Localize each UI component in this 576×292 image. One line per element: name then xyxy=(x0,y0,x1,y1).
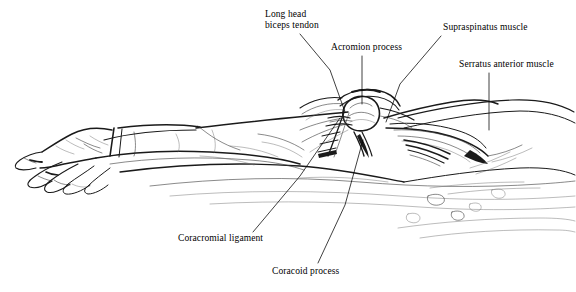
label-line-1: Supraspinatus muscle xyxy=(443,22,528,32)
label-line-1: Long head xyxy=(265,9,306,19)
label-line-1: Serratus anterior muscle xyxy=(459,59,554,69)
label-acromion-process: Acromion process xyxy=(331,42,402,53)
label-coracoid-process: Coracoid process xyxy=(272,266,339,277)
arm-contours xyxy=(96,125,304,170)
torso-contours xyxy=(120,100,575,210)
label-serratus-anterior-muscle: Serratus anterior muscle xyxy=(459,59,554,70)
leader-coracoid-process xyxy=(318,140,363,263)
anatomy-figure: Long headbiceps tendon Acromion process … xyxy=(0,0,576,292)
label-line-2: biceps tendon xyxy=(265,20,319,30)
label-line-1: Acromion process xyxy=(331,42,402,52)
label-line-1: Coracromial ligament xyxy=(178,233,263,243)
hand-and-fingers xyxy=(15,128,112,194)
anatomy-illustration-canvas xyxy=(0,0,576,292)
label-supraspinatus-muscle: Supraspinatus muscle xyxy=(443,22,528,33)
surgical-field-detail xyxy=(200,134,575,238)
label-long-head-biceps-tendon: Long headbiceps tendon xyxy=(265,9,319,31)
label-coracromial-ligament: Coracromial ligament xyxy=(178,233,263,244)
leader-lines xyxy=(253,34,489,263)
label-line-1: Coracoid process xyxy=(272,266,339,276)
